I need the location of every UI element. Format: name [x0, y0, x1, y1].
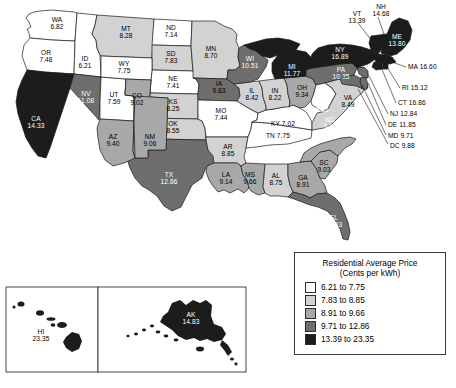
legend-swatch-2 [305, 308, 316, 319]
leader-line-RI [387, 67, 400, 88]
legend-row-3[interactable]: 9.71 to 12.86 [295, 320, 445, 333]
alaska-aleutian-7 [174, 339, 179, 342]
state-shape-WA[interactable] [26, 10, 77, 41]
alaska-aleutian-4 [126, 335, 129, 337]
legend-label-0: 6.21 to 7.75 [321, 282, 365, 293]
leader-line-MD [362, 85, 386, 135]
legend-row-4[interactable]: 13.39 to 23.35 [295, 333, 445, 346]
state-shape-ND[interactable] [152, 19, 192, 46]
state-shape-CA[interactable] [16, 70, 74, 158]
state-shape-SD[interactable] [152, 45, 193, 71]
state-shape-WY[interactable] [101, 56, 152, 80]
hawaii-island-oahu [36, 310, 44, 316]
state-shape-ME[interactable] [386, 18, 412, 56]
state-shape-MT[interactable] [92, 15, 154, 58]
hawaii-island-kauai [18, 301, 25, 306]
legend-subtitle: (Cents per kWh) [295, 268, 445, 281]
map-legend: Residential Average Price (Cents per kWh… [294, 252, 446, 355]
state-shape-NM-b[interactable] [134, 96, 168, 158]
legend-swatch-4 [305, 334, 316, 345]
leader-line-DC [358, 89, 388, 144]
legend-swatch-0 [305, 282, 316, 293]
state-shape-NE[interactable] [150, 70, 199, 94]
legend-label-1: 7.83 to 8.85 [321, 295, 365, 306]
legend-rows: 6.21 to 7.757.83 to 8.858.91 to 9.669.71… [295, 281, 445, 346]
alaska-island-kodiak [196, 347, 204, 352]
alaska-aleutian-6 [164, 335, 169, 338]
hawaii-island-molokai [47, 317, 56, 321]
us-choropleth-map: WA6.82 OR7.48 ID6.21 MT8.28 ND7.14 SD7.8… [0, 0, 456, 388]
leader-line-NJ [368, 74, 388, 114]
legend-row-2[interactable]: 8.91 to 9.66 [295, 307, 445, 320]
leader-line-VT [358, 23, 375, 45]
state-shapes [16, 10, 412, 240]
legend-swatch-3 [305, 321, 316, 332]
leader-line-MA [392, 62, 406, 67]
state-shape-FL[interactable] [288, 192, 350, 240]
alaska-island-se-1 [230, 357, 234, 360]
leader-line-CT [381, 67, 396, 103]
hawaii-island-maui [57, 322, 67, 328]
state-shape-NV[interactable] [70, 74, 101, 120]
hawaii-island-lanai [51, 323, 56, 327]
alaska-aleutian-3 [134, 333, 138, 336]
alaska-island-se-2 [234, 363, 237, 366]
legend-label-4: 13.39 to 23.35 [321, 334, 374, 345]
alaska-aleutian-5 [156, 331, 161, 334]
alaska-aleutian-1 [150, 325, 154, 328]
state-shape-AZ[interactable] [97, 119, 135, 166]
legend-swatch-1 [305, 295, 316, 306]
legend-row-1[interactable]: 7.83 to 8.85 [295, 294, 445, 307]
inset-frame-hawaii [6, 287, 98, 372]
legend-title: Residential Average Price [295, 257, 445, 268]
state-shape-CT[interactable] [372, 62, 383, 70]
state-shape-OR[interactable] [22, 38, 75, 74]
legend-label-3: 9.71 to 12.86 [321, 321, 369, 332]
legend-label-2: 8.91 to 9.66 [321, 308, 365, 319]
alaska-aleutian-2 [142, 329, 146, 332]
legend-row-0[interactable]: 6.21 to 7.75 [295, 281, 445, 294]
hawaii-island-niihau [12, 305, 15, 308]
state-shape-NJ[interactable] [357, 67, 368, 78]
